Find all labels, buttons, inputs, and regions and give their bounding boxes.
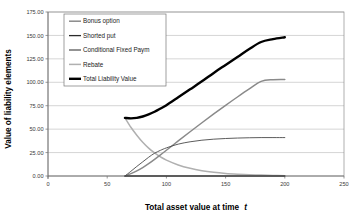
legend-label: Conditional Fixed Paym	[83, 46, 150, 54]
x-tick-label: 100	[162, 181, 171, 187]
y-tick-label: 125.00	[26, 56, 43, 62]
y-tick-label: 175.00	[26, 9, 43, 15]
legend-label: Bonus option	[83, 17, 120, 25]
x-tick-label: 200	[280, 181, 289, 187]
x-tick-label: 250	[339, 181, 348, 187]
x-axis-title-italic: t	[244, 203, 247, 212]
chart-legend: Bonus optionShorted putConditional Fixed…	[64, 14, 166, 86]
chart-background	[0, 0, 356, 218]
x-tick-label: 150	[221, 181, 230, 187]
y-tick-label: 100.00	[26, 79, 43, 85]
y-tick-label: 50.00	[30, 126, 44, 132]
x-axis-title: Total asset value at time t	[145, 203, 247, 212]
y-axis-title: Value of liability elements	[4, 49, 13, 149]
legend-label: Total Liability Value	[83, 75, 137, 83]
y-tick-label: 0.00	[33, 173, 44, 179]
x-tick-label: 0	[46, 181, 49, 187]
legend-label: Shorted put	[83, 32, 116, 40]
y-tick-label: 75.00	[30, 103, 44, 109]
x-tick-label: 50	[104, 181, 110, 187]
chart-container: 0.0025.0050.0075.00100.00125.00150.00175…	[0, 0, 356, 218]
y-tick-label: 25.00	[30, 150, 44, 156]
y-tick-label: 150.00	[26, 33, 43, 39]
liability-elements-line-chart: 0.0025.0050.0075.00100.00125.00150.00175…	[0, 0, 356, 218]
legend-label: Rebate	[83, 61, 104, 68]
x-axis-title-plain: Total asset value at time	[145, 203, 239, 212]
